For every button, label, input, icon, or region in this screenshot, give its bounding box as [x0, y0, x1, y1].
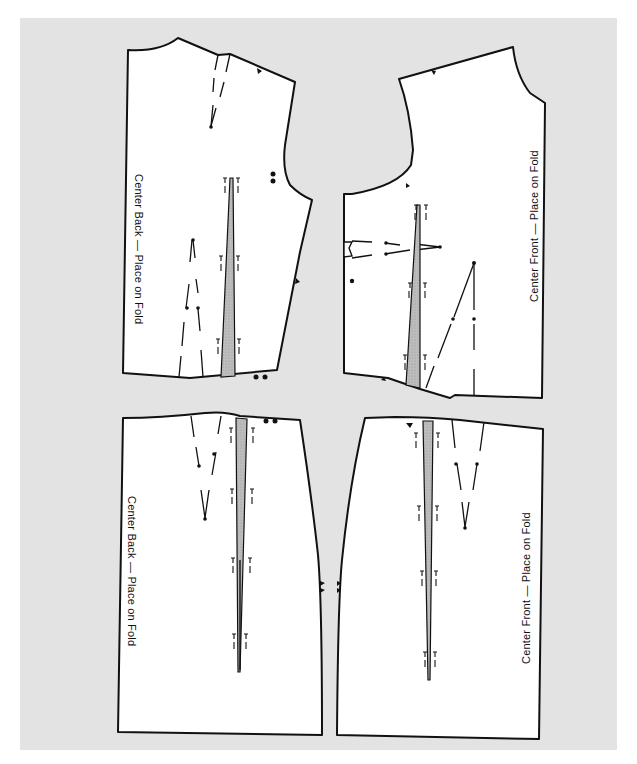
bodice-front-fold-label: Center Front — Place on Fold [528, 150, 540, 302]
skirt-back-piece: Center Back — Place on Fold [118, 412, 325, 735]
page: Center Back — Place on Fold [0, 0, 637, 764]
bodice-back-fold-label: Center Back — Place on Fold [133, 174, 145, 324]
pattern-diagram: Center Back — Place on Fold [0, 0, 637, 764]
skirt-back-fold-label: Center Back — Place on Fold [126, 496, 138, 646]
bodice-back-piece: Center Back — Place on Fold [123, 38, 312, 380]
skirt-front-piece: Center Front — Place on Fold [337, 417, 543, 739]
bodice-front-piece: Center Front — Place on Fold [344, 47, 545, 398]
skirt-front-fold-label: Center Front — Place on Fold [520, 512, 532, 664]
